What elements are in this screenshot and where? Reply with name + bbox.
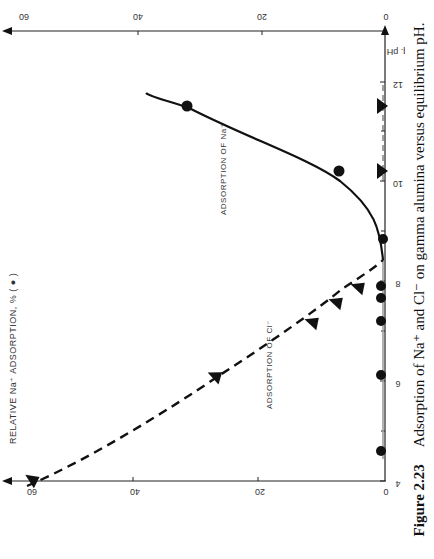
figure-page: 0 20 40 60 0 20 40 60 4 6 8 10 12 eq. pH…: [0, 0, 434, 559]
left-axis-arrow-icon: [2, 477, 12, 485]
x-axis-arrow-icon: [381, 25, 389, 35]
right-tick-labels: 0 20 40 60: [19, 12, 389, 22]
x-axis-title: eq. pH: [387, 47, 405, 57]
cl-curve: [27, 260, 383, 486]
caption-number: Figure 2.23: [411, 464, 427, 536]
x-tick-labels: 4 6 8 10 12 eq. pH: [387, 47, 405, 489]
label-na: ADSORPTION OF Na⁺: [219, 124, 228, 215]
label-cl: ADSORPTION OF Cl⁻: [265, 320, 274, 409]
figure-caption: Figure 2.23 Adsorption of Na⁺ and Cl⁻ on…: [405, 0, 434, 559]
svg-text:12: 12: [393, 80, 403, 90]
svg-text:6: 6: [395, 379, 400, 389]
svg-text:0: 0: [383, 12, 388, 22]
caption-text: Adsorption of Na⁺ and Cl⁻ on gamma alumi…: [411, 23, 427, 448]
svg-text:40: 40: [133, 12, 143, 22]
svg-text:20: 20: [257, 12, 267, 22]
svg-text:20: 20: [255, 487, 265, 497]
svg-text:60: 60: [19, 12, 29, 22]
cl-markers: [25, 98, 388, 489]
svg-text:10: 10: [393, 179, 403, 189]
axes: [2, 25, 389, 485]
svg-text:60: 60: [27, 487, 37, 497]
svg-text:4: 4: [395, 479, 400, 489]
right-axis-arrow-icon: [2, 27, 12, 35]
svg-text:40: 40: [130, 487, 140, 497]
chart: 0 20 40 60 0 20 40 60 4 6 8 10 12 eq. pH…: [0, 0, 405, 559]
left-tick-labels: 0 20 40 60: [27, 487, 389, 497]
svg-text:0: 0: [383, 487, 388, 497]
svg-text:8: 8: [395, 279, 400, 289]
y-axis-title: RELATIVE Na⁺ ADSORPTION, % ( ● ): [8, 273, 18, 444]
na-curve: [146, 93, 383, 260]
